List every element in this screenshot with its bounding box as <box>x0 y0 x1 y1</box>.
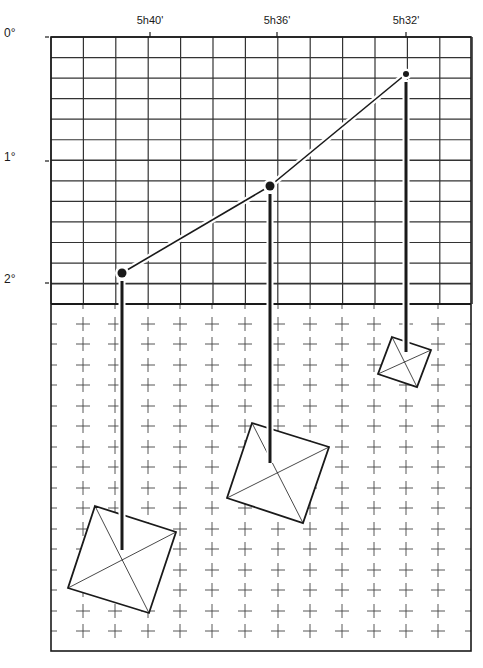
declination-label-1: 1° <box>4 150 15 164</box>
track-point <box>403 71 409 77</box>
track-line <box>270 74 406 186</box>
time-label-5h36: 5h36' <box>264 14 291 26</box>
declination-label-2: 2° <box>4 272 15 286</box>
track-point <box>118 269 127 278</box>
track-line <box>122 186 270 273</box>
time-label-5h40: 5h40' <box>137 14 164 26</box>
track-point <box>266 182 275 191</box>
diagram-canvas <box>0 0 483 668</box>
diagram: 5h40' 5h36' 5h32' 0° 1° 2° <box>0 0 483 668</box>
declination-label-0: 0° <box>4 26 15 40</box>
time-label-5h32: 5h32' <box>393 14 420 26</box>
